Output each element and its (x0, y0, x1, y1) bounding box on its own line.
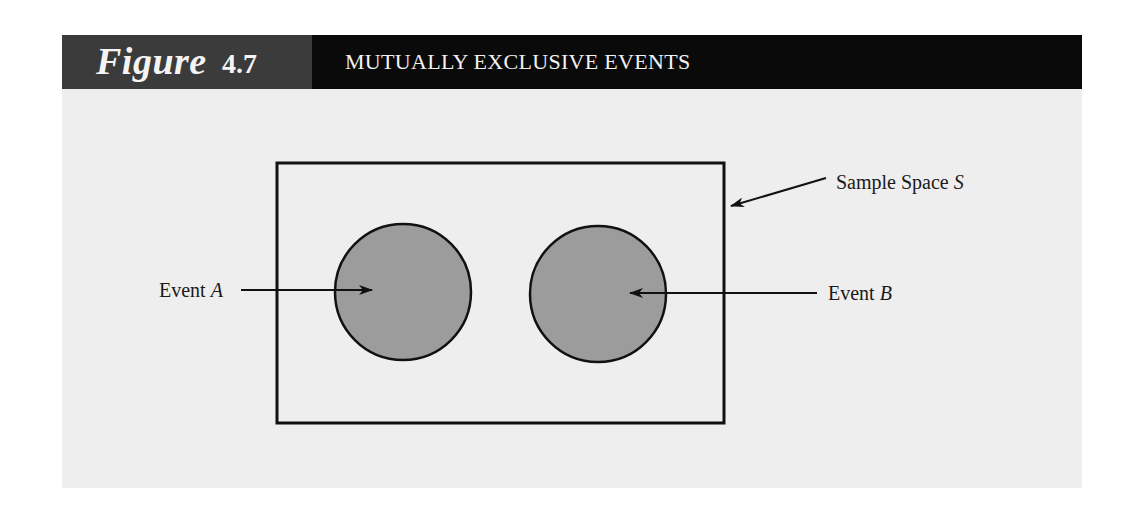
event-b-label-text: Event (828, 282, 880, 304)
event-a-label: Event A (159, 278, 223, 302)
venn-diagram (0, 0, 1141, 526)
sample-space-label: Sample Space S (836, 170, 964, 194)
sample-space-label-text: Sample Space (836, 171, 954, 193)
event-a-symbol: A (211, 279, 223, 301)
sample-space-symbol: S (954, 171, 964, 193)
event-a-circle (335, 224, 471, 360)
sample-space-arrow (731, 178, 826, 206)
event-b-label: Event B (828, 281, 892, 305)
event-b-symbol: B (880, 282, 892, 304)
event-a-label-text: Event (159, 279, 211, 301)
